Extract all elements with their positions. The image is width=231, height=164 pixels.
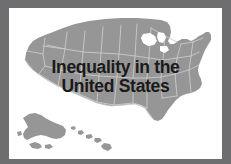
map-contiguous-us-shape xyxy=(25,18,211,121)
map-hawaii-shape xyxy=(71,126,112,151)
slide-panel: Inequality in the United States xyxy=(9,8,222,159)
map-alaska-shape xyxy=(17,113,66,149)
united-states-map xyxy=(9,8,222,159)
slide-frame: Inequality in the United States xyxy=(0,0,231,164)
